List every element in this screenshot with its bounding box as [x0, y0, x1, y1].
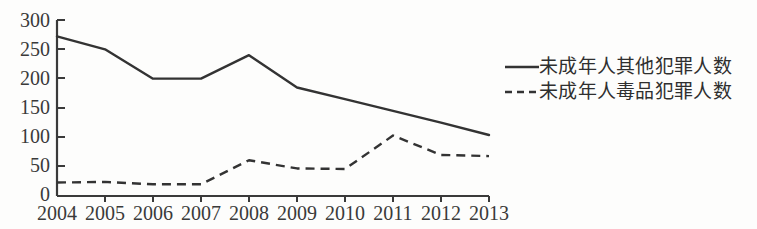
line-chart-figure: 300 250 200 150 100 50 0: [0, 0, 757, 229]
x-axis-tick-labels: 2004 2005 2006 2007 2008 2009 2010 2011 …: [0, 201, 757, 229]
series-line-juvenile-drug-crimes: [57, 136, 489, 185]
y-axis-ticks: [57, 20, 65, 166]
chart-legend: 未成年人其他犯罪人数 未成年人毒品犯罪人数: [505, 54, 757, 108]
legend-solid-line-icon: [505, 60, 539, 74]
x-axis-tick-label: 2008: [222, 201, 276, 225]
series-line-other-juvenile-crimes: [57, 36, 489, 135]
legend-item-juvenile-drug-crimes: 未成年人毒品犯罪人数: [505, 79, 757, 104]
legend-label: 未成年人毒品犯罪人数: [539, 81, 732, 103]
x-axis-tick-label: 2013: [462, 201, 516, 225]
x-axis-tick-label: 2009: [270, 201, 324, 225]
legend-label: 未成年人其他犯罪人数: [539, 56, 732, 78]
plot-area: [0, 0, 757, 229]
legend-item-other-juvenile-crimes: 未成年人其他犯罪人数: [505, 54, 757, 79]
legend-dashed-line-icon: [505, 85, 539, 99]
x-axis-tick-label: 2012: [414, 201, 468, 225]
x-axis-tick-label: 2011: [366, 201, 420, 225]
x-axis-tick-label: 2010: [318, 201, 372, 225]
x-axis-tick-label: 2006: [126, 201, 180, 225]
x-axis-tick-label: 2007: [174, 201, 228, 225]
x-axis-tick-label: 2004: [30, 201, 84, 225]
x-axis-tick-label: 2005: [78, 201, 132, 225]
